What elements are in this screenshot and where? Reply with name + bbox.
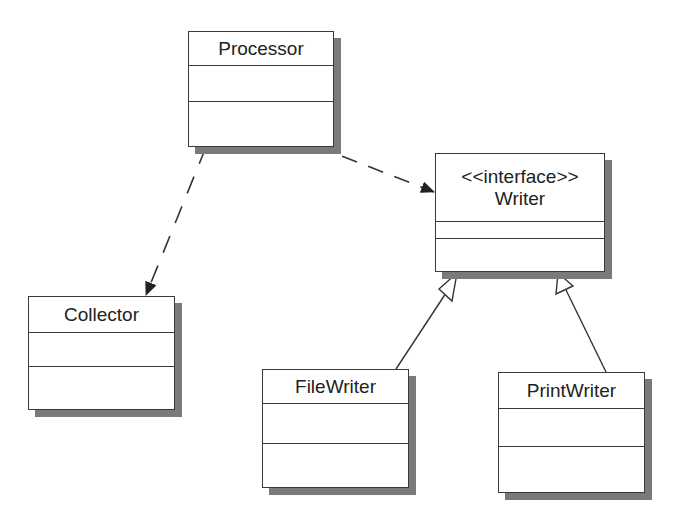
stereotype-text: <<interface>>	[436, 166, 604, 188]
generalization-filewriter-writer	[396, 290, 448, 369]
attributes-compartment	[189, 66, 333, 102]
class-name: PrintWriter	[499, 373, 644, 409]
class-processor[interactable]: Processor	[188, 31, 334, 147]
class-printwriter[interactable]: PrintWriter	[498, 372, 645, 493]
dependency-processor-writer	[316, 146, 434, 192]
hollow-triangle-icon	[439, 273, 457, 301]
class-name: <<interface>> Writer	[436, 154, 604, 222]
attributes-compartment	[29, 333, 174, 367]
attributes-compartment	[436, 222, 604, 239]
generalization-printwriter-writer	[566, 290, 606, 372]
class-name-text: FileWriter	[263, 376, 408, 398]
attributes-compartment	[499, 409, 644, 447]
class-name: Collector	[29, 297, 174, 333]
class-name-text: PrintWriter	[499, 380, 644, 402]
class-name-text: Collector	[29, 304, 174, 326]
class-name: FileWriter	[263, 370, 408, 404]
class-name-text: Writer	[436, 188, 604, 210]
attributes-compartment	[263, 404, 408, 444]
hollow-triangle-icon	[556, 273, 573, 294]
class-name-text: Processor	[189, 38, 333, 60]
class-writer-interface[interactable]: <<interface>> Writer	[435, 153, 605, 272]
dependency-processor-collector	[146, 147, 206, 295]
class-name: Processor	[189, 32, 333, 66]
class-collector[interactable]: Collector	[28, 296, 175, 410]
class-filewriter[interactable]: FileWriter	[262, 369, 409, 488]
